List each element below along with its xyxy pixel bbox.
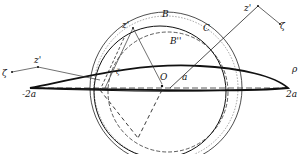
joukowski-diagram: ζ z' z' B C B'' z' ζ ζ O a ρ -2a 2a xyxy=(0,0,302,154)
dashed-right xyxy=(138,90,162,138)
label-minus-2a: -2a xyxy=(22,89,36,99)
dashed-top xyxy=(100,38,124,90)
circle-B-double-prime xyxy=(108,32,228,152)
left-zprime-point xyxy=(37,66,39,68)
right-zeta-line xyxy=(258,6,280,24)
label-a: a xyxy=(182,72,187,82)
circle-C xyxy=(90,12,242,154)
label-zprime-left: z' xyxy=(33,55,41,65)
right-zprime-point xyxy=(257,5,259,7)
label-zeta-left: ζ xyxy=(2,68,8,78)
circle-C-dotted xyxy=(94,16,238,154)
label-zprime-top: z' xyxy=(121,20,129,30)
label-rho: ρ xyxy=(291,64,298,74)
top-zprime-to-O xyxy=(133,28,162,84)
origin-point xyxy=(161,85,163,87)
left-zeta-line xyxy=(12,67,38,72)
label-C: C xyxy=(203,23,210,33)
label-2a: 2a xyxy=(285,89,297,99)
label-B: B xyxy=(161,9,169,19)
left-zeta-point xyxy=(11,71,13,73)
label-zeta-right: ζ xyxy=(280,21,286,31)
label-O: O xyxy=(160,72,168,82)
dashed-left xyxy=(100,90,138,138)
label-zprime-right: z' xyxy=(243,3,251,13)
label-zeta-inner: ζ xyxy=(116,68,121,76)
label-B-double-prime: B'' xyxy=(169,36,182,46)
left-zprime-line xyxy=(38,67,100,80)
